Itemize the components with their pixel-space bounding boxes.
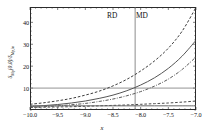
- curve-lower-dashdot: [30, 57, 196, 107]
- x-tick-label: −7.0: [191, 111, 202, 118]
- y-tick-label: 10: [23, 85, 29, 92]
- reference-lines: [30, 7, 196, 110]
- x-axis-title: x: [0, 124, 204, 131]
- y-tick-label: 20: [23, 63, 29, 70]
- x-tick-label: −9.0: [80, 111, 91, 118]
- x-tick-label: −7.5: [163, 111, 174, 118]
- plot-canvas: [0, 0, 204, 140]
- y-axis-title-text: δMp(0,0)/δMp,in: [7, 46, 13, 79]
- y-axis-title: δMp(0,0)/δMp,in: [7, 33, 15, 91]
- data-curves: [30, 7, 196, 107]
- y-tick-label: 40: [23, 19, 29, 26]
- curve-flat-dashed: [30, 101, 196, 107]
- x-tick-label: −9.5: [52, 111, 63, 118]
- axis-ticks: [30, 7, 196, 110]
- region-label-rd: RD: [107, 11, 117, 20]
- region-label-md: MD: [136, 11, 148, 20]
- x-tick-label: −8.0: [135, 111, 146, 118]
- curve-middle-solid: [30, 40, 196, 106]
- curve-upper-dashed: [30, 7, 196, 104]
- x-tick-label: −8.5: [108, 111, 119, 118]
- y-tick-label: 30: [23, 41, 29, 48]
- chart-figure: −10.0−9.5−9.0−8.5−8.0−7.5−7.0 10203040 x…: [0, 0, 204, 140]
- x-tick-label: −10.0: [23, 111, 37, 118]
